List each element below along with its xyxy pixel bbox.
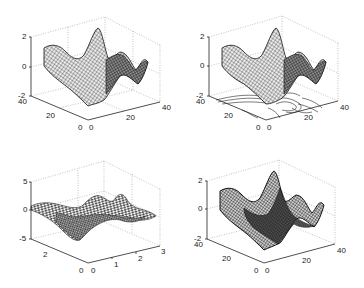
- plot-3d-mesh-transparent: [182, 144, 364, 288]
- x-tick: 0: [89, 124, 93, 132]
- x-tick: 0: [91, 267, 95, 275]
- x-tick: 2: [138, 255, 142, 263]
- subplot-mesh: 2 0 -2 40 20 0 0 20 40: [0, 0, 182, 144]
- y-tick: 0: [256, 124, 260, 132]
- y-tick: 40: [18, 98, 27, 106]
- mesh-surface: [222, 28, 326, 104]
- x-tick: 40: [337, 247, 346, 255]
- y-tick: 0: [79, 267, 83, 275]
- subplot-surf: 5 0 -5 2 0 0 1 2 3: [0, 144, 182, 288]
- z-tick: 0: [198, 205, 202, 213]
- y-tick: 20: [224, 112, 233, 120]
- x-tick: 0: [265, 267, 269, 275]
- z-tick: 5: [23, 178, 27, 186]
- z-tick: 0: [200, 62, 204, 70]
- z-tick: 2: [198, 177, 202, 185]
- x-tick: 40: [162, 104, 171, 112]
- y-tick: 0: [78, 124, 82, 132]
- plot-3d-meshc: [182, 0, 364, 144]
- x-tick: 20: [302, 257, 311, 265]
- y-tick: 40: [196, 98, 205, 106]
- x-tick: 1: [114, 261, 118, 269]
- y-tick: 20: [222, 255, 231, 263]
- x-tick: 3: [161, 248, 165, 256]
- y-tick: 2: [43, 251, 47, 259]
- subplot-mesh-hidden-off: 2 0 -2 40 20 0 0 20 40: [182, 144, 364, 288]
- z-tick: 2: [22, 33, 26, 41]
- y-tick: 0: [254, 267, 258, 275]
- subplot-meshc: 2 0 -2 40 20 0 0 20 40: [182, 0, 364, 144]
- z-tick: 0: [23, 206, 27, 214]
- x-tick: 20: [304, 114, 313, 122]
- x-tick: 20: [126, 114, 135, 122]
- z-tick: -5: [19, 235, 26, 243]
- x-tick: 40: [340, 104, 349, 112]
- z-tick: 0: [22, 63, 26, 71]
- z-tick: 2: [200, 33, 204, 41]
- y-tick: 40: [194, 241, 203, 249]
- y-tick: 20: [46, 112, 55, 120]
- x-tick: 0: [267, 124, 271, 132]
